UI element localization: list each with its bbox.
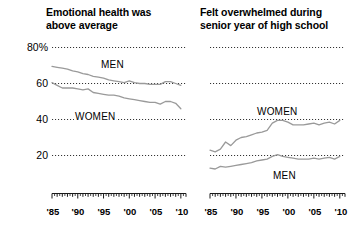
- series-line-women: [52, 83, 181, 109]
- series-label-men: MEN: [272, 170, 297, 181]
- series-label-women: WOMEN: [74, 111, 116, 122]
- series-line-men: [210, 155, 340, 169]
- series-line-women: [210, 120, 340, 151]
- x-axis-felt-overwhelmed: [210, 194, 345, 199]
- x-axis-emotional-health: [52, 194, 186, 199]
- series-label-men: MEN: [100, 59, 125, 70]
- panel-felt-overwhelmed: Felt overwhelmed during senior year of h…: [190, 0, 362, 232]
- series-label-women: WOMEN: [256, 106, 298, 117]
- panel-emotional-health: Emotional health was above average 80% 6…: [0, 0, 190, 232]
- chart-figure: Emotional health was above average 80% 6…: [0, 0, 362, 232]
- x-tick-label-10: '10: [326, 206, 356, 217]
